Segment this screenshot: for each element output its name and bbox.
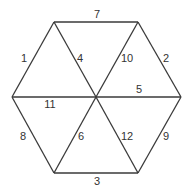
edge-label-4: 4 [77,52,83,64]
edge-2 [138,22,181,97]
edge-label-10: 10 [121,52,133,64]
edge-label-7: 7 [94,8,100,20]
edge-9 [138,97,181,173]
edge-6 [54,97,96,173]
hexagon-diagram: 714102115861293 [0,0,189,194]
edge-label-6: 6 [78,130,84,142]
edge-label-3: 3 [94,175,100,187]
edge-1 [12,22,54,97]
edge-label-12: 12 [121,130,133,142]
edge-label-9: 9 [163,130,169,142]
edge-label-11: 11 [44,98,55,110]
edge-4 [54,22,96,97]
edge-label-5: 5 [136,83,142,95]
edge-label-8: 8 [20,130,26,142]
edges-group [12,22,181,173]
edge-label-1: 1 [21,52,27,64]
edge-label-2: 2 [163,52,169,64]
